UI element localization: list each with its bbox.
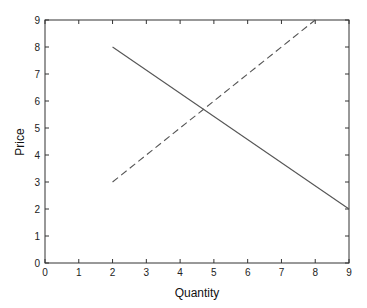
line-chart: 0123456789 0123456789 Quantity Price <box>0 0 367 308</box>
y-tick-label: 8 <box>34 42 40 53</box>
y-axis-label: Price <box>13 128 27 156</box>
plot-border <box>45 20 349 263</box>
y-tick-label: 7 <box>34 69 40 80</box>
x-axis: 0123456789 <box>42 20 352 278</box>
y-tick-label: 2 <box>34 204 40 215</box>
y-tick-label: 0 <box>34 258 40 269</box>
y-tick-label: 3 <box>34 177 40 188</box>
y-tick-label: 4 <box>34 150 40 161</box>
x-tick-label: 0 <box>42 267 48 278</box>
x-tick-label: 9 <box>346 267 352 278</box>
x-tick-label: 7 <box>279 267 285 278</box>
series-layer <box>113 20 349 209</box>
y-axis: 0123456789 <box>34 15 349 269</box>
y-tick-label: 9 <box>34 15 40 26</box>
x-axis-label: Quantity <box>175 286 220 300</box>
series-supply-line <box>113 20 316 182</box>
x-tick-label: 2 <box>110 267 116 278</box>
plot-frame <box>45 20 349 263</box>
x-tick-label: 8 <box>312 267 318 278</box>
series-demand-line <box>113 47 349 209</box>
y-tick-label: 1 <box>34 231 40 242</box>
x-tick-label: 1 <box>76 267 82 278</box>
x-tick-label: 3 <box>144 267 150 278</box>
y-tick-label: 5 <box>34 123 40 134</box>
y-tick-label: 6 <box>34 96 40 107</box>
x-tick-label: 4 <box>177 267 183 278</box>
x-tick-label: 6 <box>245 267 251 278</box>
x-tick-label: 5 <box>211 267 217 278</box>
